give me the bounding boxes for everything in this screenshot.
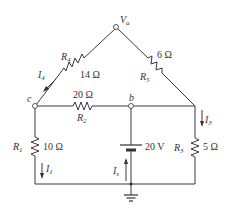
arrow-i3-icon [200,110,204,127]
r5-name: R5 [139,71,150,84]
current-is-label: Is [112,165,119,178]
r3-name: R3 [173,142,184,155]
circuit-diagram: Va c b R4 14 Ω 6 Ω R5 20 Ω R2 R1 10 Ω R3… [0,0,231,216]
resistor-r3 [191,106,199,184]
r1-value: 10 Ω [43,141,63,152]
arrow-i4-icon [43,79,56,92]
r1-name: R1 [12,141,23,154]
resistor-r1 [31,108,39,184]
ground-icon [124,195,138,201]
source-value: 20 V [145,141,165,152]
current-i1-label: I1 [45,163,53,176]
voltage-source [120,108,142,195]
r2-value: 20 Ω [73,89,93,100]
current-i4-label: I4 [37,69,45,82]
r4-value: 14 Ω [80,69,100,80]
r5-value: 6 Ω [157,49,172,60]
node-a-label: Va [120,14,130,27]
current-i3-label: I3 [204,114,212,127]
junction-dot [130,183,133,186]
node-c-label: c [27,93,32,104]
r3-value: 5 Ω [203,141,218,152]
resistor-r2 [37,102,195,110]
node-b [129,104,134,109]
node-c [33,104,38,109]
node-b-label: b [129,92,134,103]
node-a [114,25,119,30]
arrow-i1-icon [40,163,44,179]
r4-name: R4 [60,51,71,64]
r2-name: R2 [76,112,87,125]
arrow-is-icon [124,158,128,181]
